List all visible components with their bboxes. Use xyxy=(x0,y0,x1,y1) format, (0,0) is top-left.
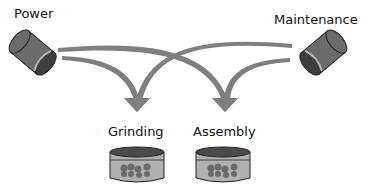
arrow-maintenance-to-assembly xyxy=(212,58,290,112)
target-label-assembly: Assembly xyxy=(193,124,256,139)
maintenance-cylinder-icon xyxy=(296,26,351,78)
power-cylinder-icon xyxy=(5,26,60,78)
grinding-bin-icon xyxy=(110,147,164,182)
assembly-bin-icon xyxy=(196,147,250,182)
source-label-maintenance: Maintenance xyxy=(274,12,358,27)
source-label-power: Power xyxy=(14,6,53,21)
diagram-canvas xyxy=(0,0,374,192)
target-label-grinding: Grinding xyxy=(108,124,164,139)
